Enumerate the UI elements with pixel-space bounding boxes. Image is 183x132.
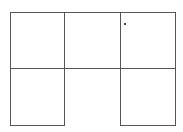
marker-dot [124, 23, 126, 25]
inner-vertical-2 [120, 12, 121, 126]
bottom-edge-left [10, 125, 65, 126]
right-edge [175, 12, 176, 126]
bottom-edge-right [120, 125, 176, 126]
left-edge [10, 12, 11, 126]
inner-vertical-1 [64, 12, 65, 126]
middle-edge [10, 68, 176, 69]
top-edge [10, 12, 176, 13]
